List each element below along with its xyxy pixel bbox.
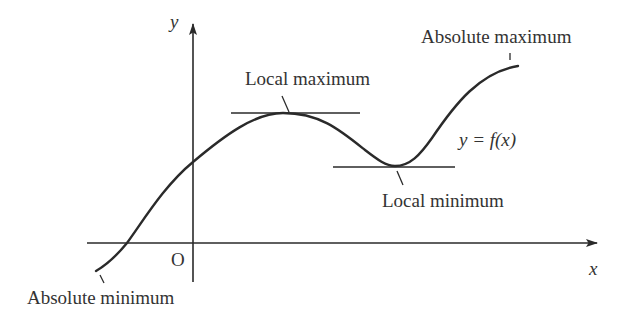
y-axis-label: y	[168, 11, 179, 32]
absolute-minimum-leader	[100, 275, 104, 283]
curve-label: y = f(x)	[457, 129, 516, 151]
local-maximum-leader	[282, 96, 289, 112]
function-curve	[96, 66, 518, 271]
local-maximum-label: Local maximum	[245, 68, 370, 89]
absolute-minimum-label: Absolute minimum	[27, 287, 174, 308]
origin-label: O	[171, 249, 185, 270]
local-minimum-label: Local minimum	[382, 190, 504, 211]
local-minimum-leader	[397, 171, 403, 185]
extrema-diagram: y x O y = f(x) Local maximum Local minim…	[0, 0, 627, 320]
x-axis-label: x	[588, 258, 598, 279]
absolute-maximum-label: Absolute maximum	[421, 26, 572, 47]
